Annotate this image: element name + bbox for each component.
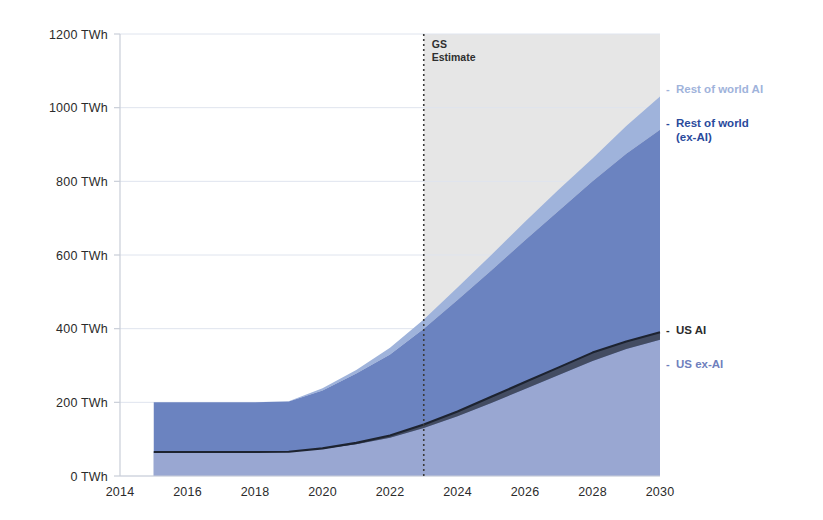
legend-us-ai-dash: -: [666, 324, 670, 336]
legend-rest-of-world-ai-dash: -: [666, 83, 670, 95]
x-tick-label-2022: 2022: [376, 485, 405, 499]
x-tick-label-2014: 2014: [106, 485, 135, 499]
legend-rest-of-world-ex-ai-label-line2: (ex-AI): [676, 131, 712, 143]
chart-canvas: 0 TWh200 TWh400 TWh600 TWh800 TWh1000 TW…: [0, 0, 823, 520]
y-tick-label-0: 0 TWh: [70, 470, 108, 484]
legend-rest-of-world-ai-label: Rest of world AI: [676, 83, 763, 95]
y-tick-label-200: 200 TWh: [56, 396, 108, 410]
x-tick-label-2020: 2020: [308, 485, 337, 499]
y-axis-tick-labels: 0 TWh200 TWh400 TWh600 TWh800 TWh1000 TW…: [49, 28, 108, 484]
y-tick-label-1000: 1000 TWh: [49, 101, 108, 115]
gs-estimate-label-line1: GS: [432, 38, 447, 50]
energy-demand-area-chart: 0 TWh200 TWh400 TWh600 TWh800 TWh1000 TW…: [0, 0, 823, 520]
gs-estimate-label-line2: Estimate: [432, 51, 476, 63]
x-axis-tick-labels: 201420162018202020222024202620282030: [106, 485, 675, 499]
x-tick-label-2026: 2026: [511, 485, 540, 499]
legend-us-ex-ai-label: US ex-AI: [676, 358, 723, 370]
y-tick-label-1200: 1200 TWh: [49, 28, 108, 42]
legend: -Rest of world AI-Rest of world(ex-AI)-U…: [666, 83, 763, 370]
legend-rest-of-world-ex-ai-dash: -: [666, 117, 670, 129]
x-tick-label-2028: 2028: [578, 485, 607, 499]
y-tick-label-400: 400 TWh: [56, 322, 108, 336]
x-tick-label-2016: 2016: [173, 485, 202, 499]
legend-us-ai-label: US AI: [676, 324, 706, 336]
x-tick-label-2018: 2018: [241, 485, 270, 499]
y-tick-label-600: 600 TWh: [56, 249, 108, 263]
x-tick-label-2024: 2024: [443, 485, 472, 499]
legend-rest-of-world-ex-ai-label: Rest of world: [676, 117, 749, 129]
legend-us-ex-ai-dash: -: [666, 358, 670, 370]
x-tick-label-2030: 2030: [646, 485, 675, 499]
y-tick-label-800: 800 TWh: [56, 175, 108, 189]
